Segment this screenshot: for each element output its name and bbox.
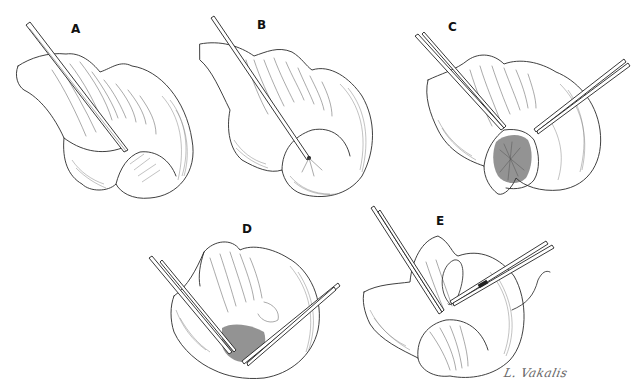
panel-c-illustration <box>400 0 636 200</box>
panel-d-illustration <box>140 200 360 391</box>
panel-a: A <box>0 0 212 200</box>
panel-b-illustration <box>190 0 402 200</box>
panel-b: B <box>190 0 402 200</box>
panel-a-illustration <box>0 0 212 200</box>
panel-d: D <box>140 200 360 391</box>
panel-e-illustration <box>340 200 636 391</box>
panel-c: C <box>400 0 636 200</box>
artist-signature: L. Vakalis <box>503 366 570 380</box>
panel-e: E <box>340 200 636 391</box>
